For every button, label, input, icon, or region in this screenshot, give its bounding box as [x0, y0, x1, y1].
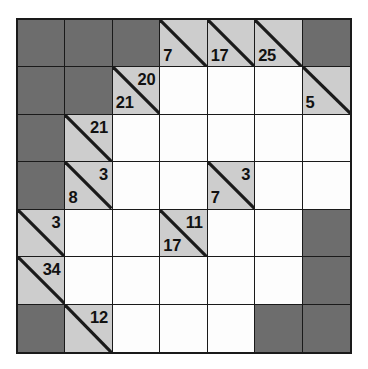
entry-cell[interactable]: [160, 257, 207, 304]
clue-cell: 83: [65, 162, 112, 209]
clue-cell: 21: [65, 115, 112, 162]
clue-down-value: 5: [306, 94, 315, 111]
block-cell: [255, 305, 302, 352]
clue-across-value: 12: [90, 309, 108, 326]
clue-down-value: 25: [258, 47, 276, 64]
entry-cell[interactable]: [160, 115, 207, 162]
clue-down-value: 8: [68, 189, 77, 206]
block-cell: [65, 20, 112, 67]
entry-cell[interactable]: [160, 305, 207, 352]
entry-cell[interactable]: [208, 210, 255, 257]
clue-cell: 12: [65, 305, 112, 352]
entry-cell[interactable]: [255, 257, 302, 304]
clue-cell: 73: [208, 162, 255, 209]
clue-across-value: 34: [43, 261, 61, 278]
clue-down-value: 7: [163, 47, 172, 64]
block-cell: [18, 162, 65, 209]
clue-down-value: 17: [211, 47, 229, 64]
block-cell: [18, 305, 65, 352]
clue-cell: 1711: [160, 210, 207, 257]
block-cell: [303, 305, 350, 352]
clue-cell: 34: [18, 257, 65, 304]
entry-cell[interactable]: [113, 162, 160, 209]
clue-cell: 17: [208, 20, 255, 67]
block-cell: [303, 257, 350, 304]
entry-cell[interactable]: [113, 257, 160, 304]
entry-cell[interactable]: [255, 67, 302, 114]
entry-cell[interactable]: [113, 305, 160, 352]
clue-across-value: 3: [241, 166, 250, 183]
clue-cell: 2120: [113, 67, 160, 114]
entry-cell[interactable]: [208, 115, 255, 162]
clue-across-value: 3: [99, 166, 108, 183]
entry-cell[interactable]: [160, 162, 207, 209]
entry-cell[interactable]: [208, 305, 255, 352]
entry-cell[interactable]: [113, 210, 160, 257]
clue-down-value: 21: [116, 94, 134, 111]
clue-down-value: 17: [163, 237, 181, 254]
entry-cell[interactable]: [65, 210, 112, 257]
block-cell: [303, 210, 350, 257]
kakuro-grid: 7172521205218373317113412: [16, 18, 352, 354]
clue-cell: 7: [160, 20, 207, 67]
block-cell: [18, 67, 65, 114]
clue-cell: 5: [303, 67, 350, 114]
kakuro-puzzle: 7172521205218373317113412: [16, 18, 352, 354]
block-cell: [113, 20, 160, 67]
clue-cell: 3: [18, 210, 65, 257]
entry-cell[interactable]: [113, 115, 160, 162]
clue-across-value: 3: [52, 214, 61, 231]
entry-cell[interactable]: [208, 67, 255, 114]
clue-cell: 25: [255, 20, 302, 67]
entry-cell[interactable]: [255, 115, 302, 162]
entry-cell[interactable]: [303, 115, 350, 162]
entry-cell[interactable]: [255, 162, 302, 209]
clue-down-value: 7: [211, 189, 220, 206]
entry-cell[interactable]: [303, 162, 350, 209]
block-cell: [18, 20, 65, 67]
entry-cell[interactable]: [208, 257, 255, 304]
entry-cell[interactable]: [65, 257, 112, 304]
clue-across-value: 11: [186, 214, 203, 231]
clue-across-value: 21: [90, 119, 108, 136]
block-cell: [303, 20, 350, 67]
entry-cell[interactable]: [255, 210, 302, 257]
entry-cell[interactable]: [160, 67, 207, 114]
block-cell: [18, 115, 65, 162]
block-cell: [65, 67, 112, 114]
clue-across-value: 20: [138, 71, 156, 88]
